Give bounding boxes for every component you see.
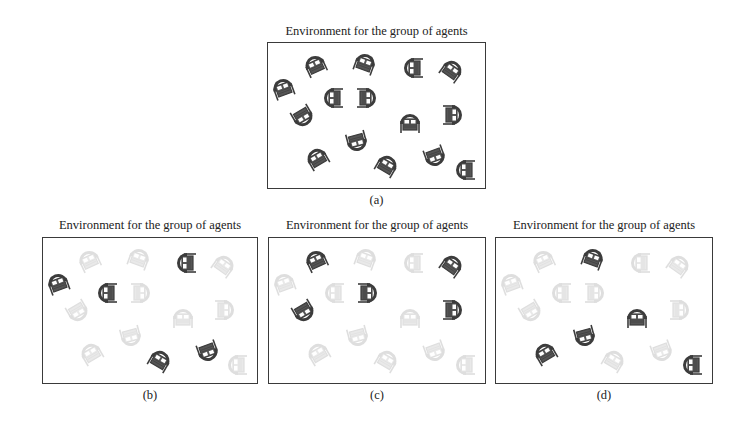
agent-robot-icon [667, 297, 693, 323]
agent-robot-icon [440, 297, 466, 323]
agent-robot-icon [224, 352, 250, 378]
agent-robot-icon [452, 352, 478, 378]
agent-robot-icon [582, 280, 608, 306]
agent-robot-icon [452, 157, 478, 183]
panel-caption-c: (c) [357, 388, 397, 403]
agent-robot-icon [624, 305, 650, 331]
panel-title-d: Environment for the group of agents [484, 218, 724, 233]
agent-robot-icon [128, 280, 154, 306]
agent-robot-icon [397, 305, 423, 331]
panel-title-a: Environment for the group of agents [257, 24, 497, 39]
agent-robot-icon [173, 250, 199, 276]
agent-robot-icon [212, 297, 238, 323]
panel-title-c: Environment for the group of agents [257, 218, 497, 233]
panel-caption-d: (d) [584, 388, 624, 403]
agent-robot-icon [548, 280, 574, 306]
agent-robot-icon [170, 305, 196, 331]
agent-robot-icon [94, 280, 120, 306]
agent-robot-icon [679, 352, 705, 378]
agent-robot-icon [355, 280, 381, 306]
agent-robot-icon [397, 110, 423, 136]
agent-robot-icon [440, 102, 466, 128]
panel-caption-a: (a) [357, 193, 397, 208]
agent-robot-icon [627, 250, 653, 276]
agent-robot-icon [320, 85, 346, 111]
agent-robot-icon [400, 55, 426, 81]
agent-robot-icon [400, 250, 426, 276]
panel-title-b: Environment for the group of agents [30, 218, 270, 233]
panel-caption-b: (b) [130, 388, 170, 403]
agent-robot-icon [354, 85, 380, 111]
agent-robot-icon [321, 280, 347, 306]
